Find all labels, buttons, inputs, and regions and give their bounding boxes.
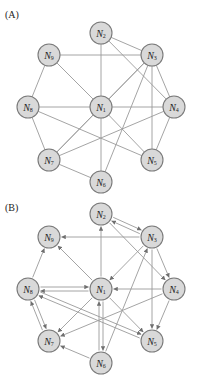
node-n7: N7 [38,149,60,171]
edge-n3-n1 [110,246,143,280]
edge-n4-n5 [156,117,170,150]
node-n3: N3 [141,44,163,66]
node-n3: N3 [141,226,163,248]
panel-a-label: (A) [5,9,19,21]
edge-n6-n7 [61,346,90,358]
edge-n9-n1 [57,63,93,99]
node-n9: N9 [38,226,60,248]
node-n4: N4 [163,96,185,118]
edge-n9-n8 [32,65,45,97]
node-n9: N9 [38,44,60,66]
node-n2: N2 [90,22,112,44]
edge-n8-n5 [40,292,141,334]
edge-n1-n9 [58,246,92,280]
node-n1: N1 [90,96,112,118]
node-n4: N4 [163,278,185,300]
panel-b-label: (B) [5,202,18,214]
edge-n1-n7 [58,298,92,332]
edge-n3-n4 [156,65,169,97]
panel-a-undirected-graph: (A) N1N2N3N4N5N6N7N8N9 [5,9,185,193]
edge-n8-n7 [32,117,45,150]
edge-n8-n9 [33,249,45,278]
network-diagram: (A) N1N2N3N4N5N6N7N8N9 (B) N1N2N3N4N5N6N… [0,0,201,390]
edge-n7-n6 [59,164,91,177]
edge-n1-n5 [109,115,145,152]
node-n1: N1 [90,278,112,300]
edge-n2-n3 [111,37,142,50]
node-n5: N5 [141,149,163,171]
node-n8: N8 [17,96,39,118]
node-n7: N7 [38,330,60,352]
node-n8: N8 [17,278,39,300]
node-n5: N5 [141,330,163,352]
node-n2: N2 [90,203,112,225]
node-n6: N6 [90,352,112,374]
edge-n4-n5 [157,301,169,330]
panel-b-directed-graph: (B) N1N2N3N4N5N6N7N8N9 [5,202,185,374]
edge-n1-n7 [57,115,94,152]
edge-n1-n5 [110,298,143,332]
node-n6: N6 [90,171,112,193]
